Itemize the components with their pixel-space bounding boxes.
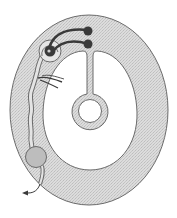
node-lower: [84, 40, 93, 49]
diagram-svg: [0, 0, 177, 218]
arrowhead-icon: [22, 191, 28, 196]
central-ring: [79, 100, 102, 123]
node-upper: [84, 27, 93, 36]
exit-arrow: [22, 184, 40, 196]
diagram-canvas: [0, 0, 177, 218]
